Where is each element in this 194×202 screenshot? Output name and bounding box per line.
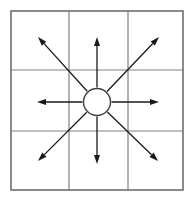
- cell-r3c1: [11, 131, 69, 190]
- cell-r2c3: [128, 70, 183, 131]
- cell-r2c1: [11, 70, 69, 131]
- cell-r1c2: [69, 11, 128, 70]
- center-circle: [84, 89, 111, 116]
- cell-r3c2: [69, 131, 128, 190]
- radial-arrow-diagram: [0, 0, 194, 202]
- diagram-canvas: [0, 0, 194, 202]
